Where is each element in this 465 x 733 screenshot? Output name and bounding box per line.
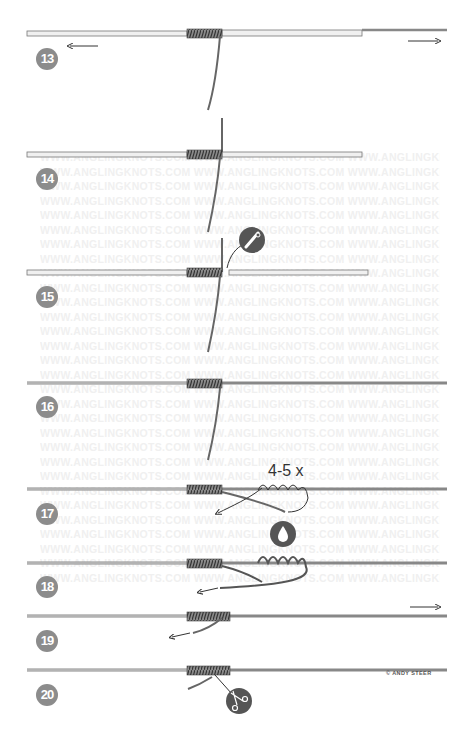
step-16-badge: 16 bbox=[36, 396, 58, 418]
scissors-icon bbox=[226, 688, 252, 714]
wrap-count-label: 4-5 x bbox=[268, 462, 304, 480]
step-17-drawing bbox=[27, 485, 447, 513]
scissors-icon bbox=[239, 227, 265, 253]
knot-diagram bbox=[0, 0, 465, 733]
step-18-badge: 18 bbox=[36, 576, 58, 598]
water-drop-icon bbox=[270, 521, 296, 547]
step-15-drawing bbox=[27, 227, 368, 352]
copyright-credit: © ANDY STEER bbox=[386, 670, 432, 676]
step-13-drawing bbox=[27, 29, 447, 110]
step-16-drawing bbox=[27, 379, 447, 460]
step-20-drawing bbox=[27, 666, 447, 714]
step-19-drawing bbox=[27, 607, 447, 637]
step-19-badge: 19 bbox=[36, 630, 58, 652]
step-15-badge: 15 bbox=[36, 286, 58, 308]
step-14-badge: 14 bbox=[36, 168, 58, 190]
step-13-badge: 13 bbox=[36, 48, 58, 70]
step-14-drawing bbox=[27, 118, 362, 232]
step-17-badge: 17 bbox=[36, 503, 58, 525]
step-20-badge: 20 bbox=[36, 684, 58, 706]
step-18-drawing bbox=[27, 521, 447, 592]
